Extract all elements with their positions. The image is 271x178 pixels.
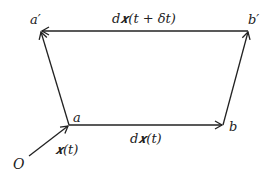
label-b-prime: b′ — [248, 13, 259, 26]
vector-a-to-a-prime — [41, 32, 69, 125]
label-dx-t: d𝒙(t) — [130, 132, 162, 145]
label-origin: O — [13, 157, 24, 171]
label-b: b — [229, 120, 237, 133]
label-dx-t-plus-dt: d𝒙(t + δt) — [112, 12, 176, 25]
diagram-canvas: a′ d𝒙(t + δt) b′ a b d𝒙(t) 𝒙(t) O — [0, 0, 271, 178]
label-a: a — [73, 111, 81, 124]
label-x-t: 𝒙(t) — [55, 143, 78, 156]
vector-b-to-b-prime — [223, 32, 248, 125]
label-a-prime: a′ — [30, 13, 41, 26]
